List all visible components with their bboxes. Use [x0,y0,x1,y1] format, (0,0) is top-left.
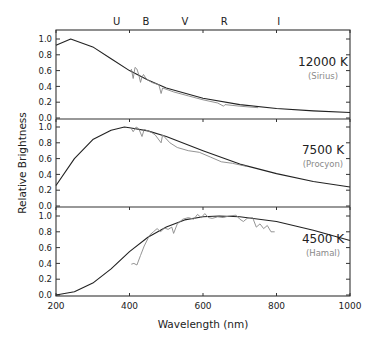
band-label-v: V [182,16,189,27]
observed-spectrum-4500 [131,214,274,265]
y-tick-label: 0.8 [38,227,52,237]
y-tick-label: 0.8 [38,50,52,60]
panel-hamal: 0.00.20.40.60.81.04500 K(Hamal) [38,207,350,300]
y-tick-label: 0.4 [38,82,52,92]
x-tick-label: 200 [47,301,64,311]
blackbody-curve-7500 [56,127,350,187]
chart-panels: 0.00.20.40.60.81.012000 K(Sirius)0.00.20… [38,30,350,300]
temperature-label: 12000 K [298,55,349,69]
x-tick-label: 400 [121,301,138,311]
panel-procyon: 0.00.20.40.60.81.07500 K(Procyon) [38,119,350,211]
y-tick-label: 0.2 [38,97,52,107]
star-name-label: (Procyon) [303,159,343,169]
y-tick-label: 0.0 [38,290,52,300]
band-label-b: B [143,16,150,27]
temperature-label: 7500 K [302,143,345,157]
y-tick-label: 1.0 [38,34,52,44]
band-label-u: U [113,16,120,27]
x-axis-label: Wavelength (nm) [158,318,249,330]
star-name-label: (Hamal) [306,248,340,258]
y-tick-label: 0.6 [38,154,52,164]
observed-spectrum-12000 [131,67,258,107]
y-tick-label: 0.6 [38,66,52,76]
y-tick-label: 0.4 [38,259,52,269]
blackbody-curve-12000 [56,39,350,113]
band-label-i: I [277,16,280,27]
y-tick-label: 0.8 [38,138,52,148]
x-tick-label: 1000 [339,301,362,311]
y-tick-label: 0.0 [38,201,52,211]
blackbody-spectra-chart: UBVRI 0.00.20.40.60.81.012000 K(Sirius)0… [0,0,375,343]
y-tick-label: 0.2 [38,274,52,284]
y-tick-label: 0.2 [38,185,52,195]
x-tick-label: 800 [268,301,285,311]
temperature-label: 4500 K [302,232,345,246]
y-tick-label: 0.4 [38,170,52,180]
y-tick-label: 0.6 [38,243,52,253]
y-axis-label: Relative Brightness [16,112,28,214]
panel-sirius: 0.00.20.40.60.81.012000 K(Sirius) [38,30,350,123]
star-name-label: (Sirius) [308,71,338,81]
band-label-r: R [221,16,228,27]
x-tick-label: 600 [194,301,211,311]
photometric-band-labels: UBVRI [113,16,280,27]
y-tick-label: 1.0 [38,122,52,132]
y-tick-label: 1.0 [38,211,52,221]
